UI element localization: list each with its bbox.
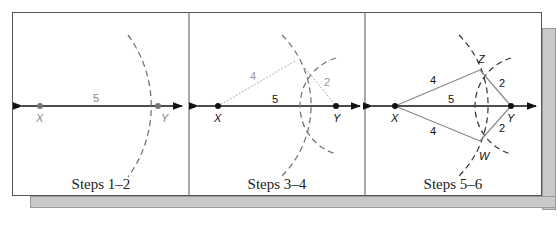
label-yz: 2 <box>499 77 505 89</box>
label-y: Y <box>333 112 341 124</box>
panel-1: X Y 5 <box>22 35 182 177</box>
point-y <box>155 103 161 109</box>
point-x <box>215 103 221 109</box>
point-x <box>37 103 43 109</box>
caption-panel-1: Steps 1–2 <box>13 176 189 193</box>
label-x: X <box>390 112 399 124</box>
point-x <box>392 103 398 109</box>
caption-panel-3: Steps 5–6 <box>365 176 541 193</box>
panel-3: X Y Z W 5 4 2 4 2 <box>372 35 536 176</box>
segment-xz <box>395 70 480 106</box>
label-xw: 4 <box>430 125 436 137</box>
label-w: W <box>479 150 491 162</box>
label-x: X <box>35 112 44 124</box>
segment-yz <box>480 70 511 106</box>
point-y <box>508 103 514 109</box>
label-xy: 5 <box>272 93 278 105</box>
label-xz: 4 <box>430 74 436 86</box>
label-z: Z <box>477 53 486 65</box>
point-y <box>333 103 339 109</box>
label-yw: 2 <box>499 122 505 134</box>
caption-panel-2: Steps 3–4 <box>189 176 365 193</box>
label-y: Y <box>161 112 169 124</box>
label-x: X <box>213 112 222 124</box>
label-yz: 2 <box>324 76 330 88</box>
label-xy: 5 <box>448 93 454 105</box>
dotted-xz <box>218 61 295 106</box>
label-xy: 5 <box>93 92 99 104</box>
label-y: Y <box>507 112 515 124</box>
dotted-yz <box>305 68 336 106</box>
segment-xw <box>395 106 480 141</box>
label-xz: 4 <box>250 70 256 82</box>
panel-2: X Y 5 4 2 <box>198 35 360 176</box>
